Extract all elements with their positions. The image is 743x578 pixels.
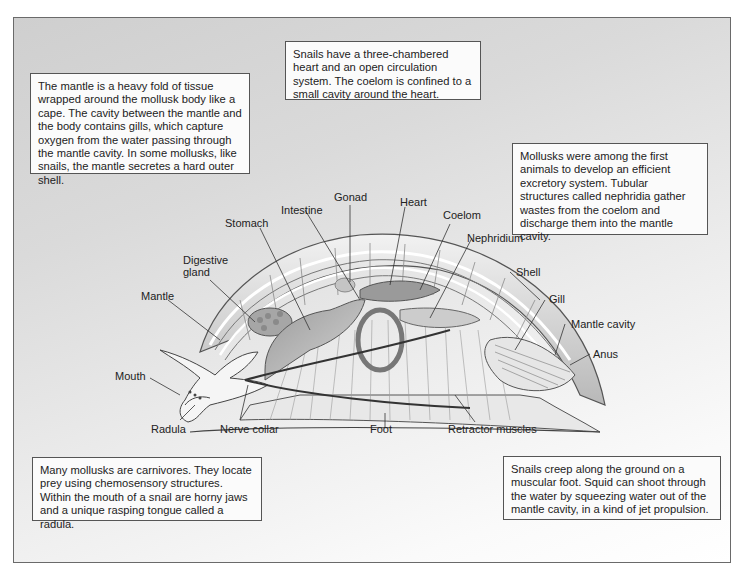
callout-mantle-text: The mantle is a heavy fold of tissue wra… <box>38 80 242 186</box>
callout-feeding: Many mollusks are carnivores. They locat… <box>32 457 262 521</box>
heart-organ <box>360 281 440 301</box>
label-retractor-muscles: Retractor muscles <box>448 423 537 435</box>
label-mouth: Mouth <box>115 370 146 382</box>
label-coelom: Coelom <box>443 209 481 221</box>
label-nerve-collar: Nerve collar <box>220 423 279 435</box>
label-anus: Anus <box>593 348 618 360</box>
label-gill: Gill <box>549 293 565 305</box>
callout-locomotion: Snails creep along the ground on a muscu… <box>503 456 721 520</box>
callout-locomotion-text: Snails creep along the ground on a muscu… <box>511 463 709 515</box>
label-gonad: Gonad <box>334 191 367 203</box>
label-stomach: Stomach <box>225 217 268 229</box>
nephridium-organ <box>400 308 480 327</box>
callout-heart: Snails have a three-chambered heart and … <box>285 41 481 100</box>
callout-excretion-text: Mollusks were among the first animals to… <box>520 150 685 242</box>
label-intestine: Intestine <box>281 204 323 216</box>
label-digestive-gland-line2: gland <box>183 266 210 278</box>
gonad-organ <box>335 278 355 292</box>
label-mantle-cavity: Mantle cavity <box>571 318 635 330</box>
callout-heart-text: Snails have a three-chambered heart and … <box>293 48 471 100</box>
callout-mantle: The mantle is a heavy fold of tissue wra… <box>30 73 250 174</box>
label-shell: Shell <box>516 266 540 278</box>
label-digestive-gland-line1: Digestive <box>183 254 228 266</box>
intestine-loop <box>358 310 402 370</box>
label-radula: Radula <box>151 423 186 435</box>
callout-feeding-text: Many mollusks are carnivores. They locat… <box>40 464 252 530</box>
label-mantle: Mantle <box>141 290 174 302</box>
label-heart: Heart <box>400 196 427 208</box>
label-foot: Foot <box>370 423 392 435</box>
label-nephridium: Nephridium <box>467 232 523 244</box>
callout-excretion: Mollusks were among the first animals to… <box>512 143 708 235</box>
